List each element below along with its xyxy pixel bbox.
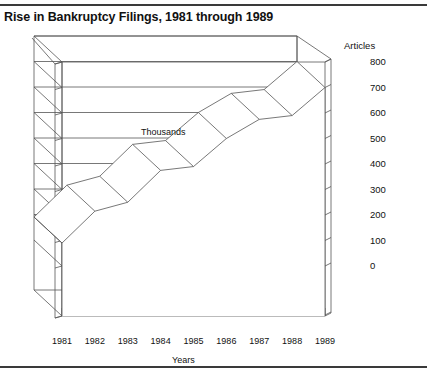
x-axis-tick-label: 1981 — [52, 336, 72, 346]
x-axis-tick-label: 1982 — [85, 336, 105, 346]
y-axis-tick-label: 700 — [370, 83, 386, 93]
chart-page: Rise in Bankruptcy Filings, 1981 through… — [0, 0, 427, 378]
thousands-annotation: Thousands — [141, 127, 186, 137]
x-axis-tick-label: 1983 — [118, 336, 138, 346]
x-axis-tick-label: 1987 — [249, 336, 269, 346]
x-axis-tick-label: 1984 — [151, 336, 171, 346]
y-axis-tick-label: 800 — [370, 57, 386, 67]
x-axis-tick-label: 1985 — [183, 336, 203, 346]
y-axis-tick-label: 100 — [370, 236, 386, 246]
y-axis-tick-label: 200 — [370, 210, 386, 220]
y-axis-tick-label: 400 — [370, 159, 386, 169]
y-axis-tick-label: 0 — [370, 261, 375, 271]
y-axis-tick-label: 500 — [370, 134, 386, 144]
y-axis-tick-label: 300 — [370, 185, 386, 195]
chart-plot-area — [0, 0, 427, 378]
y-axis-tick-label: 600 — [370, 108, 386, 118]
x-axis-tick-label: 1988 — [282, 336, 302, 346]
x-axis-tick-label: 1989 — [315, 336, 335, 346]
x-axis-tick-label: 1986 — [216, 336, 236, 346]
